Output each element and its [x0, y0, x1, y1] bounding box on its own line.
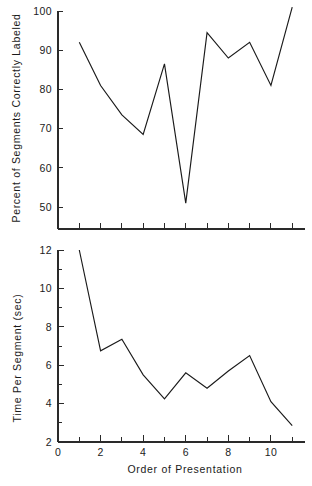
top-panel-ytick-labels: 5060708090100 — [33, 5, 52, 213]
bottom-xtick-label: 2 — [97, 446, 103, 458]
top-ytick-label: 70 — [40, 122, 52, 134]
bottom-xtick-label: 6 — [183, 446, 189, 458]
bottom-xtick-label: 10 — [265, 446, 277, 458]
bottom-xtick-label: 8 — [225, 446, 231, 458]
bottom-ytick-label: 12 — [40, 244, 52, 256]
bottom-ytick-label: 2 — [46, 436, 52, 448]
figure-container: 5060708090100 Percent of Segments Correc… — [0, 0, 312, 486]
bottom-ytick-label: 4 — [46, 397, 52, 409]
bottom-xtick-label: 4 — [140, 446, 146, 458]
percent-correct-series — [79, 7, 292, 203]
top-ytick-label: 60 — [40, 162, 52, 174]
bottom-panel-xtick-labels: 0246810 — [55, 446, 277, 458]
bottom-ytick-label: 6 — [46, 359, 52, 371]
two-panel-line-chart: 5060708090100 Percent of Segments Correc… — [0, 0, 312, 486]
top-panel-axes — [58, 11, 305, 229]
top-ytick-label: 90 — [40, 44, 52, 56]
top-panel: 5060708090100 Percent of Segments Correc… — [10, 5, 305, 229]
bottom-panel: 24681012 0246810 Time Per Segment (sec) … — [11, 244, 305, 475]
top-ytick-label: 80 — [40, 83, 52, 95]
bottom-panel-axes — [58, 250, 305, 442]
bottom-ytick-label: 10 — [40, 282, 52, 294]
top-ytick-label: 100 — [33, 5, 52, 17]
top-ytick-label: 50 — [40, 201, 52, 213]
bottom-panel-ylabel: Time Per Segment (sec) — [11, 294, 23, 423]
time-per-segment-series — [79, 250, 292, 426]
bottom-xtick-label: 0 — [55, 446, 61, 458]
bottom-panel-ytick-labels: 24681012 — [40, 244, 52, 448]
top-panel-ylabel: Percent of Segments Correctly Labeled — [10, 13, 22, 222]
bottom-panel-xlabel: Order of Presentation — [127, 463, 242, 475]
bottom-ytick-label: 8 — [46, 321, 52, 333]
